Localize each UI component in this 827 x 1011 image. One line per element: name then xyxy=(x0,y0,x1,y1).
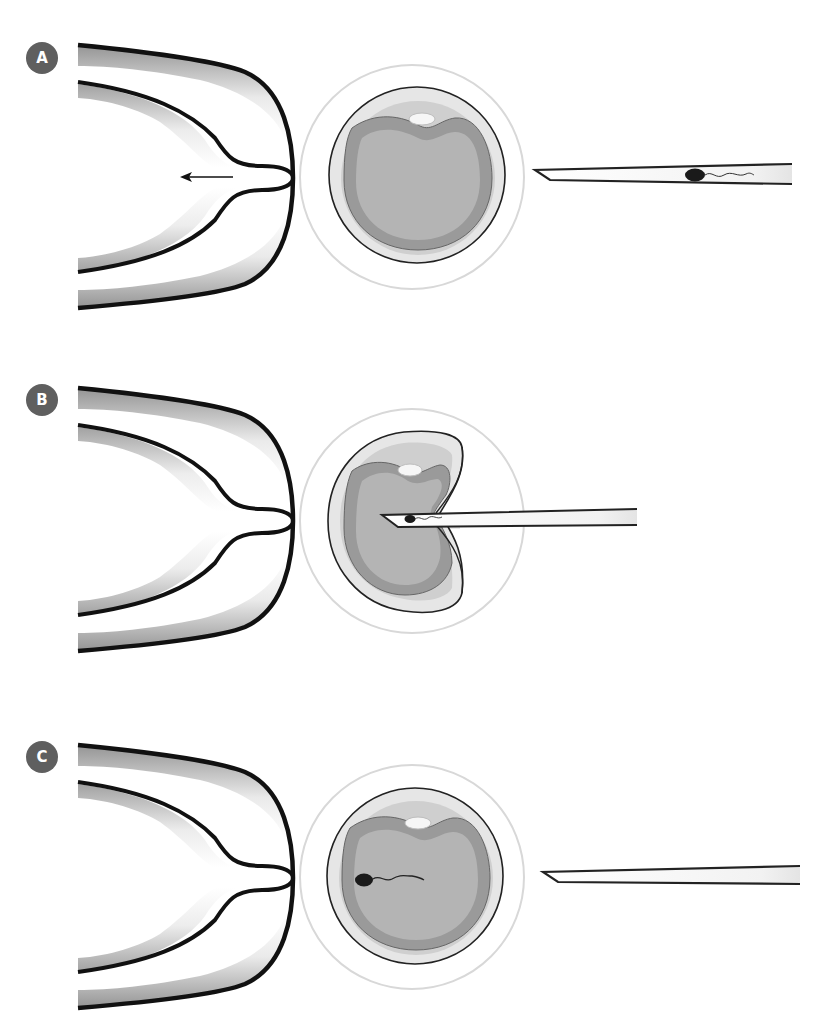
panel-a: A xyxy=(0,0,827,340)
injection-pipette xyxy=(535,164,792,184)
oocyte xyxy=(300,65,524,289)
panel-c-drawing xyxy=(0,700,827,1011)
panel-c: C xyxy=(0,700,827,1011)
polar-body xyxy=(398,464,422,476)
panel-b: B xyxy=(0,343,827,683)
holding-pipette xyxy=(78,388,293,651)
polar-body xyxy=(405,817,431,829)
polar-body xyxy=(409,113,435,125)
panel-b-drawing xyxy=(0,343,827,683)
panel-a-drawing xyxy=(0,0,827,340)
suction-arrow-icon xyxy=(180,172,233,182)
holding-pipette xyxy=(78,745,293,1008)
oocyte xyxy=(300,765,524,989)
injection-pipette xyxy=(543,866,800,884)
